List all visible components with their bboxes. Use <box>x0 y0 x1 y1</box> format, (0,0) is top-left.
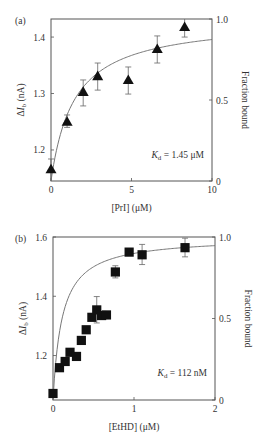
y-tick-label: 1.3 <box>33 89 45 99</box>
y2-tick-label: 0 <box>216 177 221 187</box>
panel-label: (b) <box>15 234 26 245</box>
square-marker <box>111 267 120 276</box>
triangle-marker <box>78 86 89 96</box>
chart-panel-b: 0121.21.41.600.51.0[EtHD] (μM)ΔIb (nA)Fr… <box>15 233 253 434</box>
y2-axis-label: Fraction bound <box>240 71 250 129</box>
square-marker <box>77 336 86 345</box>
square-marker <box>61 357 70 366</box>
x-axis-label: [PrI] (μM) <box>111 203 151 214</box>
triangle-marker <box>46 164 57 174</box>
triangle-marker <box>152 43 163 53</box>
x-tick-label: 10 <box>207 185 217 195</box>
y-tick-label: 1.2 <box>35 351 47 361</box>
kd-annotation: Kd = 112 nM <box>157 368 208 380</box>
chart-panel-a: 05101.21.31.400.51.0[PrI] (μM)ΔIb (nA)Fr… <box>15 15 250 215</box>
y-tick-label: 1.4 <box>33 33 45 43</box>
x-tick-label: 1 <box>132 404 137 414</box>
triangle-marker <box>123 74 134 84</box>
triangle-marker <box>62 116 73 126</box>
y2-tick-label: 0.5 <box>219 314 231 324</box>
x-axis-label: [EtHD] (μM) <box>109 422 160 433</box>
y2-tick-label: 1.0 <box>216 15 228 25</box>
x-tick-label: 2 <box>213 404 218 414</box>
square-marker <box>102 310 111 319</box>
x-tick-label: 0 <box>49 185 54 195</box>
y-tick-label: 1.4 <box>35 292 47 302</box>
x-tick-label: 5 <box>129 185 134 195</box>
y2-tick-label: 0.5 <box>216 96 228 106</box>
triangle-marker <box>179 21 190 31</box>
kd-annotation: Kd = 1.45 μM <box>151 150 205 162</box>
square-marker <box>48 389 57 398</box>
square-marker <box>180 243 189 252</box>
y-tick-label: 1.6 <box>35 233 47 243</box>
y2-tick-label: 1.0 <box>219 233 231 243</box>
x-tick-label: 0 <box>51 404 56 414</box>
panel-label: (a) <box>15 16 26 27</box>
triangle-marker <box>92 71 103 81</box>
y2-tick-label: 0 <box>219 396 224 406</box>
square-marker <box>82 325 91 334</box>
square-marker <box>72 352 81 361</box>
square-marker <box>125 248 134 257</box>
y2-axis-label: Fraction bound <box>243 290 253 348</box>
figure: 05101.21.31.400.51.0[PrI] (μM)ΔIb (nA)Fr… <box>0 0 262 438</box>
y-tick-label: 1.2 <box>33 145 45 155</box>
square-marker <box>138 250 147 259</box>
y-axis-label: ΔIb (nA) <box>18 302 30 335</box>
y-axis-label: ΔIb (nA) <box>16 83 28 116</box>
